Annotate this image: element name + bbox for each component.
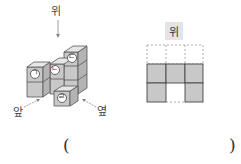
label-side-direction: 옆 [97,106,107,117]
cube-label-nieun: ㄴ [51,65,58,73]
cube-label-digeut: ㄷ [68,53,75,61]
cube-label-rieul: ㄹ [58,93,65,101]
cube-label-giyeok: ㄱ [31,69,38,77]
answer-close-paren: ) [229,135,236,155]
answer-blank[interactable] [75,138,225,156]
label-front-direction: 앞 [13,107,23,118]
view-label-top: 위 [165,22,183,40]
answer-open-paren: ( [63,135,70,155]
top-view-grid [147,45,203,102]
label-top-direction: 위 [51,6,61,17]
